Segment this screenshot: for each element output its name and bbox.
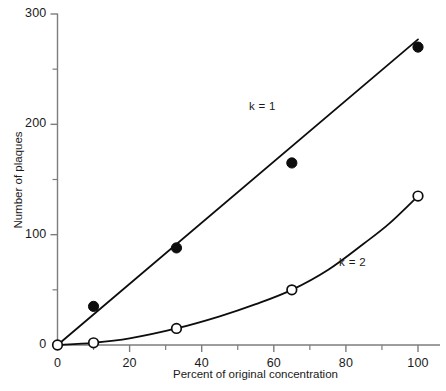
- data-point-1-1: [88, 301, 98, 311]
- y-tick-label: 300: [0, 6, 47, 20]
- series-curve-1: [58, 39, 419, 345]
- data-point-2-4: [287, 285, 297, 295]
- y-axis-title: Number of plaques: [12, 131, 24, 228]
- chart-plot-area: Number of plaques: [0, 0, 446, 391]
- x-tick-label: 100: [388, 356, 446, 370]
- data-series: [53, 39, 423, 349]
- data-point-1-4: [413, 42, 423, 52]
- y-tick-label: 0: [0, 337, 47, 351]
- y-tick-label: 100: [0, 227, 47, 241]
- x-tick-label: 20: [100, 356, 160, 370]
- data-point-2-3: [172, 324, 182, 334]
- data-point-1-2: [171, 243, 181, 253]
- y-tick-label: 200: [0, 116, 47, 130]
- plaque-assay-chart: Number of plaques 0100200300020406080100…: [0, 0, 446, 391]
- x-axis-title: Percent of original concentration: [173, 368, 338, 380]
- data-point-1-3: [287, 158, 297, 168]
- x-tick-label: 0: [28, 356, 88, 370]
- series-label-2: k = 2: [339, 256, 366, 268]
- data-point-2-2: [89, 338, 99, 348]
- data-point-2-5: [413, 191, 423, 201]
- series-label-1: k = 1: [249, 100, 276, 112]
- series-curve-2: [58, 196, 419, 345]
- data-point-2-1: [53, 340, 63, 350]
